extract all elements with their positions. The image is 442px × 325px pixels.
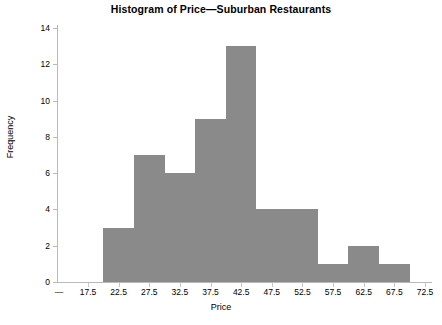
x-tick-mark	[425, 283, 426, 287]
x-axis-break-symbol: —	[49, 287, 69, 297]
histogram-bar	[103, 228, 134, 282]
x-tick-mark	[119, 283, 120, 287]
histogram-bar	[379, 264, 410, 282]
histogram-figure: Histogram of Price—Suburban Restaurants …	[0, 0, 442, 325]
histogram-bar	[134, 155, 165, 282]
x-axis-label: Price	[0, 302, 442, 312]
histogram-bar	[318, 264, 349, 282]
histogram-bar	[287, 209, 318, 282]
x-tick-mark	[394, 283, 395, 287]
histogram-bar	[165, 173, 196, 282]
x-tick-mark	[302, 283, 303, 287]
bars-layer	[0, 0, 442, 283]
x-tick-label: 72.5	[405, 287, 442, 297]
x-tick-mark	[364, 283, 365, 287]
x-tick-mark	[88, 283, 89, 287]
x-tick-mark	[241, 283, 242, 287]
histogram-bar	[348, 246, 379, 282]
histogram-bar	[256, 209, 287, 282]
histogram-bar	[226, 46, 257, 282]
x-tick-mark	[333, 283, 334, 287]
x-tick-mark	[272, 283, 273, 287]
x-tick-mark	[180, 283, 181, 287]
x-tick-mark	[149, 283, 150, 287]
x-tick-mark	[211, 283, 212, 287]
histogram-bar	[195, 119, 226, 282]
